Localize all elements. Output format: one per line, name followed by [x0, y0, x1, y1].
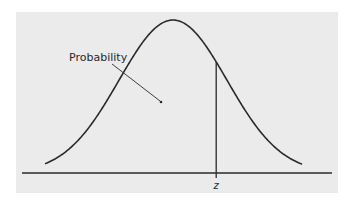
normal-curve-diagram: Probability z	[0, 0, 358, 200]
pointer-dot	[160, 101, 163, 104]
plot-panel	[16, 12, 338, 193]
probability-label: Probability	[69, 51, 128, 64]
z-label: z	[212, 180, 219, 191]
